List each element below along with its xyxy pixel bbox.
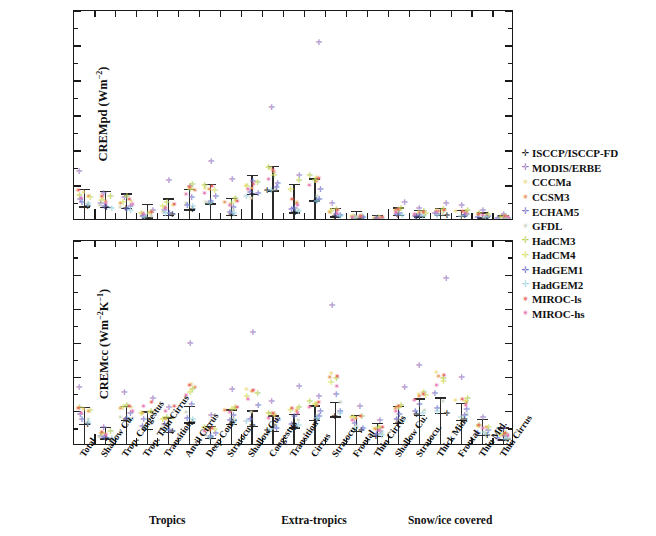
y-tick-major [74,275,81,276]
x-tick [451,241,452,247]
legend-marker-icon: ✴ [519,309,532,318]
x-tick [136,11,137,17]
x-tick [199,213,200,219]
group-title: Snow/ice covered [408,514,492,526]
legend-item[interactable]: ✴MIROC-hs [519,307,656,322]
data-point-marker: ✴ [452,397,459,405]
data-point-marker: ✛ [434,408,441,416]
x-tick [388,11,389,17]
data-point-marker: ✴ [505,214,512,219]
y-tick-major [74,343,81,344]
legend-item[interactable]: ✛MODIS/ERBE [519,161,656,176]
legend-item[interactable]: ✛HadGEM1 [519,263,656,278]
data-point-marker: ✛ [357,403,364,411]
y-tick-major [505,241,512,242]
legend-item[interactable]: ✛ISCCP/ISCCP-FD [519,146,656,161]
legend-label: HadCM4 [532,249,575,261]
x-tick [178,213,179,219]
figure-canvas: CREMpd (Wm−2) 024681012✛✛✴✴✛✴✛✛✛✛✴✴✛✛✴✴✛… [0,0,656,536]
data-point-marker: ✛ [138,410,145,418]
legend-marker-icon: ✛ [519,251,532,260]
legend-item[interactable]: ✛ECHAM5 [519,204,656,219]
data-point-marker: ✴ [265,176,272,184]
data-point-marker: ✛ [458,414,465,422]
data-point-marker: ✛ [243,418,250,426]
data-point-marker: ✛ [287,186,294,194]
data-point-marker: ✛ [255,402,262,410]
x-tick [241,241,242,247]
data-point-marker: ✛ [85,201,92,209]
legend-label: CCSM3 [532,191,569,203]
y-tick-major [74,150,81,151]
data-point-marker: ✛ [268,426,275,434]
legend-item[interactable]: ✛HadCM3 [519,234,656,249]
x-tick [157,213,158,219]
legend-item[interactable]: ✴CCCMa [519,175,656,190]
data-point-marker: ✴ [245,396,252,404]
data-point-marker: ✴ [148,399,155,407]
x-tick [157,438,158,444]
data-point-marker: ✴ [201,190,208,198]
plot-area-crempd: 024681012✛✛✴✴✛✴✛✛✛✛✴✴✛✛✴✴✛✴✛✛✛✛✴✴✛✛✴✴✛✴✛… [74,11,512,219]
group-separator [388,434,389,444]
data-point-marker: ✴ [170,415,177,423]
x-tick [367,438,368,444]
data-point-marker: ✛ [255,190,262,198]
data-point-marker: ✛ [76,168,83,176]
legend-item[interactable]: ✴MIROC-ls [519,292,656,307]
y-tick-major [74,241,81,242]
data-point-marker: ✴ [411,397,418,405]
data-point-marker: ✴ [162,205,169,213]
x-tick [94,11,95,17]
y-tick-major [505,377,512,378]
data-point-marker: ✛ [288,421,295,429]
x-tick [325,11,326,17]
group-title: Tropics [149,514,186,526]
x-tick [262,11,263,17]
x-tick [115,213,116,219]
data-point-marker: ✴ [201,428,208,436]
x-tick [325,241,326,247]
y-tick-minor [508,28,512,29]
y-tick-minor [74,257,78,258]
data-point-marker: ✴ [227,202,234,210]
legend-marker-icon: ✴ [519,295,532,304]
data-point-marker: ✴ [441,372,448,380]
legend-label: ECHAM5 [532,206,579,218]
y-tick-minor [508,326,512,327]
legend-item[interactable]: ✛HadGEM2 [519,277,656,292]
data-point-marker: ✴ [234,404,241,412]
panel-cremCC: CREMcc (Wm−2K−1) 0.000.020.040.060.080.1… [73,240,513,445]
data-point-marker: ✛ [148,408,155,416]
data-point-marker: ✴ [148,209,155,217]
data-point-marker: ✴ [376,215,383,219]
data-point-marker: ✴ [265,415,272,423]
x-tick [451,438,452,444]
legend-marker-icon: ✛ [519,236,532,245]
x-tick [367,11,368,17]
x-tick [409,241,410,247]
legend-item[interactable]: ✴GFDL [519,219,656,234]
x-tick [492,11,493,17]
data-point-marker: ✴ [162,408,169,416]
data-point-marker: ✴ [462,402,469,410]
legend-label: MIROC-hs [532,308,584,320]
data-point-marker: ✴ [505,432,512,440]
y-tick-minor [74,394,78,395]
data-point-marker: ✴ [392,209,399,217]
data-point-marker: ✛ [416,362,423,370]
group-separator [241,209,242,219]
data-point-marker: ✛ [268,398,275,406]
data-point-marker: ✴ [420,391,427,399]
y-tick-major [74,45,81,46]
data-point-marker: ✴ [334,373,341,381]
x-tick [409,11,410,17]
data-point-marker: ✛ [229,386,236,394]
data-point-marker: ✛ [296,383,303,391]
legend-item[interactable]: ✛HadCM4 [519,248,656,263]
legend-item[interactable]: ✴CCSM3 [519,190,656,205]
x-tick [283,438,284,444]
data-point-marker: ✛ [187,340,194,348]
x-tick [346,213,347,219]
x-tick [471,11,472,17]
